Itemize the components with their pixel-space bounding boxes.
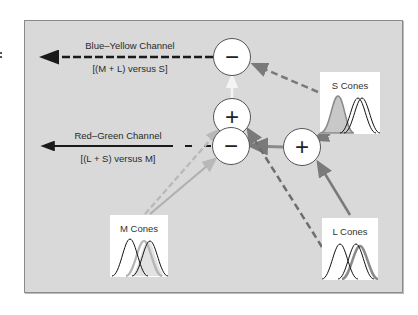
l-cones-panel: L Cones: [322, 218, 378, 280]
red-green-channel-title: Red–Green Channel: [63, 130, 173, 141]
minus-symbol: −: [225, 45, 239, 69]
s-cones-sensitivity-curves: [320, 72, 380, 134]
m-cones-sensitivity-curves: [110, 215, 168, 277]
m-cones-panel: M Cones: [110, 215, 168, 277]
m-to-by-plus-arrow: [145, 131, 218, 214]
l-cones-sensitivity-curves: [322, 218, 378, 280]
red-green-plus-node: +: [283, 128, 321, 166]
plus-symbol: +: [225, 105, 239, 129]
blue-yellow-channel-title: Blue–Yellow Channel: [70, 40, 190, 51]
m-to-rg-minus-arrow: [150, 160, 214, 214]
plus-symbol: +: [295, 135, 309, 159]
s-cones-panel: S Cones: [320, 72, 380, 134]
blue-yellow-channel-formula: [(M + L) versus S]: [70, 63, 190, 74]
minus-symbol: −: [224, 134, 238, 158]
s-to-by-minus-arrow: [255, 65, 318, 92]
l-to-rg-plus-arrow: [319, 164, 350, 215]
red-green-channel-formula: [(L + S) versus M]: [63, 153, 173, 164]
rg-plus-to-minus-arrow: [253, 146, 283, 147]
blue-yellow-minus-node: −: [213, 38, 251, 76]
red-green-minus-node: −: [212, 127, 250, 165]
